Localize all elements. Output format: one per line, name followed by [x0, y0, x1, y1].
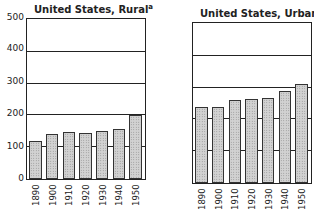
rural-plot-area — [26, 18, 146, 180]
x-label-1890: 1890 — [31, 184, 41, 206]
bar-1900 — [46, 134, 59, 179]
bar-1900 — [212, 107, 225, 183]
x-label-1940: 1940 — [280, 188, 290, 209]
bar-1950 — [295, 84, 308, 183]
x-label-1910: 1910 — [64, 184, 74, 206]
x-label-1930: 1930 — [98, 184, 108, 206]
gridline-400 — [27, 51, 145, 52]
bar-1910 — [229, 100, 242, 183]
y-tick-500: 500 — [0, 12, 24, 22]
y-tick-400: 400 — [0, 43, 24, 53]
gridline-400 — [193, 55, 311, 56]
y-tick-300: 300 — [0, 76, 24, 86]
bar-1920 — [245, 99, 258, 183]
x-label-1890: 1890 — [197, 188, 207, 209]
urban-chart-title: United States, Urbana — [200, 7, 314, 19]
bar-1940 — [279, 91, 292, 183]
y-tick-0: 0 — [0, 173, 24, 183]
x-label-1920: 1920 — [247, 188, 257, 209]
rural-chart-title: United States, Rurala — [34, 3, 153, 15]
y-tick-200: 200 — [0, 108, 24, 118]
bar-1920 — [79, 133, 92, 179]
x-label-1930: 1930 — [264, 188, 274, 209]
bar-1910 — [63, 132, 76, 179]
x-label-1940: 1940 — [114, 184, 124, 206]
x-label-1900: 1900 — [214, 188, 224, 209]
x-label-1950: 1950 — [131, 184, 141, 206]
bar-1950 — [129, 115, 142, 179]
gridline-300 — [193, 87, 311, 88]
y-tick-100: 100 — [0, 141, 24, 151]
urban-plot-area — [192, 22, 312, 184]
bar-1890 — [29, 141, 42, 179]
gridline-300 — [27, 83, 145, 84]
x-label-1900: 1900 — [48, 184, 58, 206]
x-label-1950: 1950 — [297, 188, 307, 209]
bar-1930 — [96, 131, 109, 179]
gridline-200 — [27, 114, 145, 115]
bar-1930 — [262, 98, 275, 183]
bar-1940 — [113, 129, 126, 179]
bar-1890 — [195, 107, 208, 183]
x-label-1910: 1910 — [230, 188, 240, 209]
x-label-1920: 1920 — [81, 184, 91, 206]
